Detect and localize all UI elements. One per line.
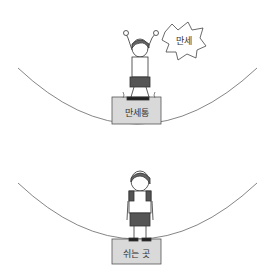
cheer-panel: 만세 만세통 <box>0 0 275 140</box>
cheer-box-label: 만세통 <box>125 108 149 118</box>
rest-illustration: 쉬는 곳 <box>0 140 275 278</box>
rest-panel: 쉬는 곳 <box>0 140 275 278</box>
person-resting <box>127 171 153 241</box>
cheer-illustration: 만세 만세통 <box>0 0 275 140</box>
person-cheering <box>123 31 159 101</box>
speech-bubble: 만세 <box>162 22 206 60</box>
speech-text: 만세 <box>176 36 192 46</box>
rest-box-label: 쉬는 곳 <box>123 249 150 259</box>
